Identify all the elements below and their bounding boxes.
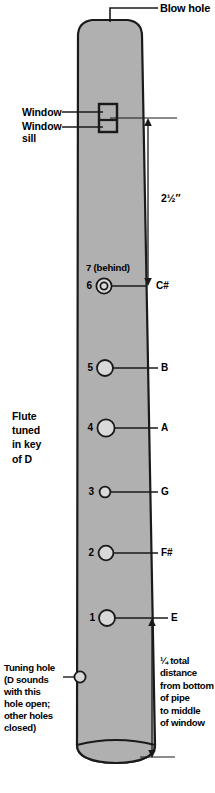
window-label: Window: [22, 106, 62, 118]
hole-4: [97, 419, 114, 436]
hole-5: [97, 360, 113, 376]
flute-bottom-opening: [77, 740, 155, 763]
dimension-top-arrow-up: [144, 118, 152, 126]
hole-2-number: 2: [78, 547, 94, 558]
hole-1-number: 1: [79, 612, 95, 623]
note-label-b: B: [161, 362, 168, 373]
tuning-hole-label: Tuning hole (D sounds with this hole ope…: [4, 662, 55, 734]
note-label-g: G: [161, 486, 169, 497]
hole-2: [99, 546, 114, 561]
dimension-top-label: 2½″: [161, 192, 180, 204]
dimension-bottom-label: ¼ total distance from bottom of pipe to …: [160, 655, 214, 730]
hole-6: [100, 282, 107, 289]
hole-3: [100, 487, 111, 498]
note-label-c-sharp: C#: [156, 280, 169, 291]
note-label-e: E: [171, 612, 178, 623]
hole-4-number: 4: [77, 422, 93, 433]
hole-7-behind-label: 7 (behind): [86, 262, 130, 273]
note-label-f-sharp: F#: [161, 547, 173, 558]
hole-3-number: 3: [78, 486, 94, 497]
hole-1: [99, 610, 115, 626]
window-sill-label: Window sill: [22, 121, 62, 145]
flute-key-label: Flute tuned in key of D: [12, 409, 41, 466]
flute-diagram: Blow hole Window Window sill 2½″ Flute t…: [0, 0, 215, 793]
hole-6-number: 6: [76, 280, 92, 291]
tuning-hole: [74, 671, 85, 682]
hole-5-number: 5: [77, 362, 93, 373]
blow-hole-label: Blow hole: [160, 2, 210, 15]
note-label-a: A: [161, 422, 168, 433]
